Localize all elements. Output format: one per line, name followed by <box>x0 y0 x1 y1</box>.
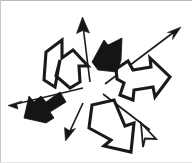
thin-arrow-down-left <box>65 103 84 141</box>
thin-arrow-down-left-shaft <box>70 103 83 131</box>
outline-arrow-upper-left-body <box>44 40 88 88</box>
outline-arrow-down-body <box>89 100 134 152</box>
thin-arrow-down-right-open-head <box>141 123 156 147</box>
solid-arrow-up-right-body <box>92 38 122 72</box>
solid-arrow-up-right <box>92 38 122 72</box>
outline-arrow-right-body <box>116 58 170 100</box>
thin-arrow-up-shaft <box>84 30 91 82</box>
arrows-illustration-canvas: Radiating Arrows Sketch <box>0 0 192 163</box>
thin-arrow-up-right-head <box>168 27 182 40</box>
outline-arrow-upper-left <box>44 40 88 88</box>
outline-arrow-right <box>116 58 170 100</box>
arrows-vector-group <box>0 0 192 163</box>
thin-arrow-left-head <box>8 101 22 109</box>
outline-arrow-down <box>89 100 134 152</box>
